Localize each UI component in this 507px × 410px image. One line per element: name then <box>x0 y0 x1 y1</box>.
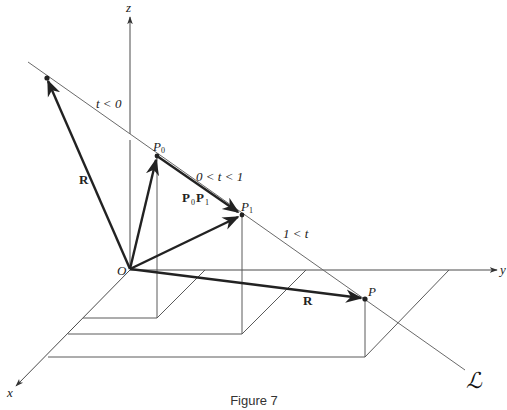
line-L <box>28 62 465 370</box>
origin-label: O <box>117 263 127 278</box>
point-P0 <box>155 154 160 159</box>
p1-label: P <box>240 199 249 214</box>
line-L-label: ℒ <box>466 368 483 393</box>
x-axis <box>16 270 130 386</box>
interval-1-less-t: 1 < t <box>283 226 309 241</box>
p1-label-sub: 1 <box>249 206 253 215</box>
p1-y-line <box>242 270 306 334</box>
x-axis-label: x <box>6 385 13 400</box>
axes <box>16 17 497 386</box>
figure-caption: Figure 7 <box>230 393 278 408</box>
interval-t-less-0: t < 0 <box>96 96 122 111</box>
floor-projections <box>48 158 449 357</box>
vector-OP0 <box>130 160 156 269</box>
parametric-line-diagram: z y x O P 0 P 1 P R R P 0 P 1 t < 0 0 < … <box>0 0 507 410</box>
p0-label-sub: 0 <box>161 146 165 155</box>
vector-R-left-label: R <box>79 172 89 187</box>
vector-R-bottom <box>130 269 361 298</box>
interval-0-t-1: 0 < t < 1 <box>196 169 243 184</box>
p-y-line <box>365 270 449 357</box>
y-axis-label: y <box>498 262 506 277</box>
p0-label: P <box>152 139 161 154</box>
vector-R-bottom-label: R <box>303 293 313 308</box>
vector-P0P1-label-a: P <box>182 190 190 205</box>
vector-P0P1-label-a-sub: 0 <box>191 198 195 207</box>
vector-OP1 <box>130 217 238 269</box>
point-t-negative <box>44 75 49 80</box>
z-axis-label: z <box>125 0 131 15</box>
p-label: P <box>367 284 376 299</box>
vector-P0P1-label-b: P <box>196 190 204 205</box>
vectors <box>48 81 361 298</box>
vector-P0P1-label-b-sub: 1 <box>205 198 209 207</box>
point-P <box>362 296 367 301</box>
